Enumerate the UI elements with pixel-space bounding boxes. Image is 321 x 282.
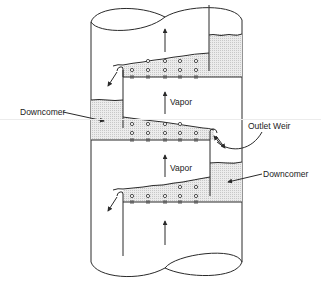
vapor-lower-label: Vapor xyxy=(170,164,192,173)
outlet-weir-leader xyxy=(217,132,262,149)
outlet-weir-label: Outlet Weir xyxy=(248,122,290,131)
vapor-upper-label: Vapor xyxy=(170,98,192,107)
column-drawing xyxy=(0,0,321,282)
distillation-column-diagram: Downcomer Vapor Outlet Weir Vapor Downco… xyxy=(0,0,321,282)
downcomer-right-label: Downcomer xyxy=(263,170,308,179)
bottom-break-outline xyxy=(91,262,242,277)
faint-divider-line xyxy=(0,119,321,120)
top-break-outline xyxy=(91,8,242,22)
downcomer-left-label: Downcomer xyxy=(20,108,65,117)
